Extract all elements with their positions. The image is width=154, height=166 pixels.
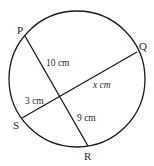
point-label-p: P: [17, 24, 23, 36]
chord-pr: [25, 36, 88, 146]
point-label-r: R: [84, 150, 92, 162]
diagram-canvas: P Q S R 10 cm x cm 3 cm 9 cm: [0, 0, 154, 166]
point-label-s: S: [13, 119, 19, 131]
segment-label-xr: 9 cm: [77, 113, 96, 123]
segment-label-xq: x cm: [92, 80, 111, 90]
chord-diagram: P Q S R 10 cm x cm 3 cm 9 cm: [0, 0, 154, 166]
point-label-q: Q: [139, 40, 147, 52]
segment-label-sx: 3 cm: [25, 96, 44, 106]
segment-label-px: 10 cm: [46, 58, 70, 68]
